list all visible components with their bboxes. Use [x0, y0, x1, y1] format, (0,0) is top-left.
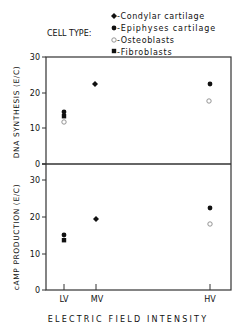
point-condylar-mv-camp	[93, 216, 99, 222]
top-ytick-0: 0	[35, 160, 40, 169]
xtick-lv: LV	[59, 295, 69, 304]
bottom-ytick-20: 20	[30, 213, 40, 222]
point-epiphyses-hv	[208, 82, 213, 87]
bottom-panel-points	[62, 206, 213, 243]
top-ytick-20: 20	[30, 89, 40, 98]
legend-title: CELL TYPE:	[47, 29, 91, 38]
legend-item-osteoblasts: -Osteoblasts	[117, 36, 174, 45]
xtick-mv: MV	[91, 295, 104, 304]
bottom-ytick-10: 10	[30, 250, 40, 259]
point-condylar-mv	[92, 81, 98, 87]
legend-item-epiphyses: -Epiphyses cartilage	[117, 24, 216, 33]
bottom-y-axis-label: cAMP PRODUCTION (E/C)	[12, 184, 21, 290]
top-ytick-10: 10	[30, 124, 40, 133]
point-epiphyses-lv	[62, 110, 67, 115]
top-ytick-30: 30	[30, 53, 40, 62]
top-panel-points	[62, 81, 213, 124]
x-axis-label: ELECTRIC FIELD INTENSITY	[48, 315, 209, 324]
top-y-axis-label: DNA SYNTHESIS (E/C)	[12, 66, 21, 159]
square-marker-icon	[112, 49, 116, 53]
point-fibroblasts-lv-camp	[62, 238, 66, 242]
plot-frame	[42, 57, 231, 290]
x-axis	[64, 284, 210, 290]
point-osteoblasts-hv	[207, 99, 211, 103]
point-epiphyses-hv-camp	[208, 206, 213, 211]
chart-canvas: CELL TYPE: -Condylar cartilage -Epiphyse…	[0, 0, 246, 331]
filled-circle-marker-icon	[112, 26, 117, 31]
point-epiphyses-lv-camp	[62, 233, 67, 238]
point-fibroblasts-lv	[62, 114, 66, 118]
legend-item-fibroblasts: -Fibroblasts	[117, 48, 173, 57]
point-osteoblasts-hv-camp	[208, 222, 212, 226]
legend-item-condylar: -Condylar cartilage	[117, 12, 205, 21]
legend: CELL TYPE: -Condylar cartilage -Epiphyse…	[47, 12, 216, 57]
point-osteoblasts-lv	[62, 120, 66, 124]
xtick-hv: HV	[204, 295, 216, 304]
bottom-ytick-30: 30	[30, 176, 40, 185]
bottom-ytick-0: 0	[35, 286, 40, 295]
open-circle-marker-icon	[112, 38, 116, 42]
